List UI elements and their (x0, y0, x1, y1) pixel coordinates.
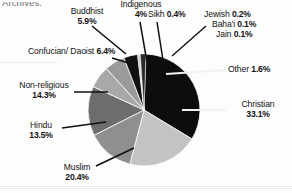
label-confucian-daoist: Confucian/ Daoist 6.4% (28, 46, 114, 56)
label-indigenous-name: Indigenous (120, 0, 161, 9)
label-hindu: Hindu 13.5% (16, 120, 66, 141)
label-other: Other 1.6% (228, 64, 292, 74)
label-sikh: Sikh 0.4% (148, 9, 198, 19)
label-jewish-value: 0.2% (232, 9, 251, 19)
leader-line-jewish-group (172, 26, 206, 56)
label-muslim: Muslim 20.4% (52, 162, 102, 183)
label-christian: Christian 33.1% (228, 99, 288, 120)
label-non-religious-value: 14.3% (32, 90, 55, 100)
label-confucian-daoist-name: Confucian/ Daoist (28, 46, 94, 56)
label-buddhist-value: 5.9% (78, 16, 97, 26)
leader-line-sikh (157, 22, 163, 60)
label-jewish-name: Jewish (204, 9, 230, 19)
label-bahai: Baha'i 0.1% (212, 19, 290, 29)
scanned-chart-page: Archives. Buddhist (0, 0, 292, 193)
label-jain: Jain 0.1% (216, 29, 290, 39)
label-muslim-value: 20.4% (65, 172, 88, 182)
label-hindu-name: Hindu (30, 120, 52, 130)
label-christian-name: Christian (241, 99, 274, 109)
label-buddhist: Buddhist 5.9% (56, 6, 118, 27)
label-jewish: Jewish 0.2% (204, 9, 290, 19)
label-muslim-name: Muslim (64, 162, 91, 172)
label-confucian-daoist-value: 6.4% (96, 46, 115, 56)
label-other-value: 1.6% (251, 64, 270, 74)
label-sikh-name: Sikh (148, 9, 164, 19)
label-hindu-value: 13.5% (29, 130, 52, 140)
label-sikh-value: 0.4% (167, 9, 186, 19)
label-non-religious: Non-religious 14.3% (8, 80, 80, 101)
label-non-religious-name: Non-religious (19, 80, 68, 90)
label-jain-value: 0.1% (234, 29, 253, 39)
label-other-name: Other (228, 64, 249, 74)
label-buddhist-name: Buddhist (71, 6, 104, 16)
label-jain-name: Jain (216, 29, 231, 39)
label-bahai-value: 0.1% (237, 19, 256, 29)
label-indigenous-value: 4% (135, 9, 147, 19)
label-bahai-name: Baha'i (212, 19, 235, 29)
label-christian-value: 33.1% (246, 109, 269, 119)
